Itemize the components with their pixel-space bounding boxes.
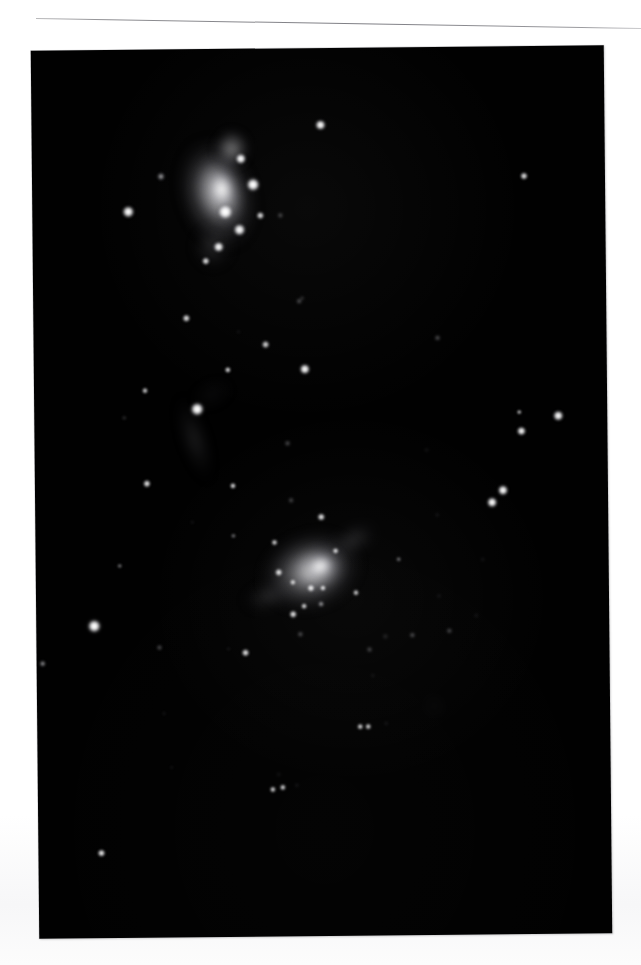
rule-container [36,16,641,32]
lower-galaxy-sw-arm [235,573,302,621]
star-point-source [226,646,231,651]
star-point-source [519,171,529,181]
star-point-source [425,448,429,452]
scanned-page [0,0,641,965]
sky-objects-layer [31,45,604,51]
star-point-source [352,589,360,597]
star-point-source [228,481,237,490]
star-point-source [516,409,522,415]
star-point-source [156,172,165,181]
star-point-source [232,222,247,237]
star-point-source [367,647,373,653]
star-point-source [298,362,313,377]
star-point-source [384,721,389,726]
star-point-source [39,660,46,667]
mid-galaxy-streak [164,385,226,494]
star-point-source [409,632,415,638]
faint-elliptical-galaxy [417,688,450,723]
horizontal-rule [36,18,641,29]
star-point-source [142,479,152,489]
star-point-source [190,520,194,524]
star-point-source [515,425,527,437]
star-point-source [162,711,166,715]
star-point-source [306,583,315,592]
star-point-source [474,613,479,618]
star-point-source [371,674,375,678]
lower-galaxy-envelope [239,507,383,634]
star-point-source [270,538,278,546]
upper-galaxy-core-glow [200,162,244,216]
star-point-source [316,512,326,522]
star-point-source [188,400,206,418]
star-point-source [395,556,401,562]
star-point-source [289,610,298,619]
star-point-source [485,495,500,510]
upper-galaxy-south-tail [188,221,236,273]
star-point-source [480,557,484,561]
star-point-source [296,298,302,304]
star-point-source [261,340,270,349]
star-point-source [289,578,297,586]
star-point-source [201,256,210,265]
star-point-source [300,296,305,301]
emulsion-fog [31,45,612,938]
star-point-source [319,584,327,592]
photographic-plate-container [31,45,612,938]
star-point-source [181,313,191,323]
star-point-source [279,783,287,791]
star-point-source [552,409,565,422]
star-point-source [269,785,277,793]
star-point-source [116,563,123,570]
star-point-source [212,240,226,254]
star-point-source [297,631,303,637]
star-point-source [156,645,162,651]
photographic-plate [31,45,612,938]
star-point-source [446,628,452,634]
star-point-source [122,415,127,420]
star-point-source [85,617,103,635]
star-point-source [256,211,265,220]
star-point-source [224,366,232,374]
star-point-source [241,648,250,657]
upper-galaxy-north-lobe [209,125,253,173]
star-point-source [216,202,235,221]
upper-galaxy-envelope [154,118,280,271]
star-point-source [434,334,441,341]
star-point-source [383,634,388,639]
star-point-source [120,203,137,220]
star-point-source [300,602,308,610]
star-point-source [295,783,299,787]
star-point-source [96,848,107,859]
star-point-source [170,766,174,770]
star-point-source [288,498,293,503]
upper-galaxy-inner [180,141,260,241]
star-point-source [356,722,365,731]
star-point-source [331,546,340,555]
star-point-source [236,330,240,334]
lower-galaxy-inner [274,531,360,607]
star-point-source [277,773,281,777]
star-point-source [230,532,237,539]
star-point-source [277,212,283,218]
star-point-source [284,440,290,446]
star-point-source [141,387,149,395]
lower-galaxy-ne-arm [319,510,389,570]
star-point-source [437,594,441,598]
lower-galaxy-core-glow [298,545,344,587]
mid-galaxy-plume [182,368,243,419]
star-point-source [317,600,324,607]
star-point-source [234,152,248,166]
star-point-source [313,118,328,133]
star-point-source [364,722,372,730]
star-point-source [274,568,283,577]
star-point-source [244,176,261,193]
star-point-source [496,483,510,497]
star-point-source [435,512,440,517]
plate-caption [40,940,600,958]
